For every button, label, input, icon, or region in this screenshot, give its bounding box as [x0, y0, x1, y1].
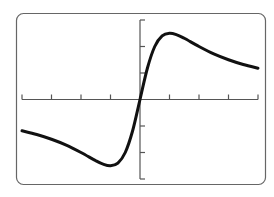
function-plot	[0, 0, 274, 197]
graph-screen	[0, 0, 274, 197]
